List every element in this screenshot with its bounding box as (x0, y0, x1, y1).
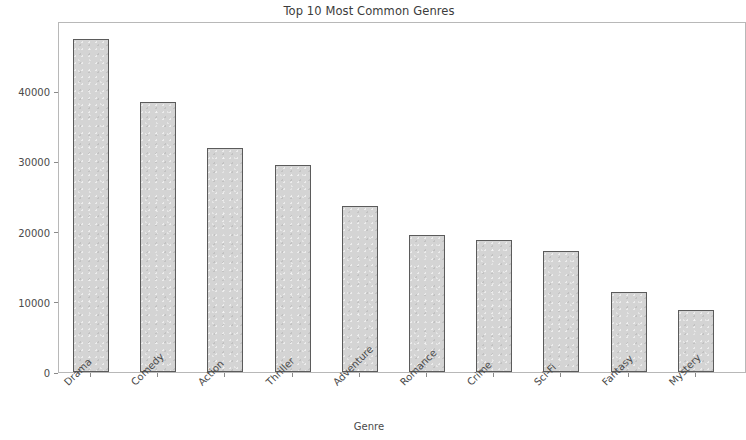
y-tick-mark (54, 162, 58, 163)
bar-crime (476, 240, 512, 372)
bar-drama (73, 39, 109, 372)
x-tick-mark (695, 373, 696, 377)
y-tick-mark (54, 232, 58, 233)
x-tick-mark (359, 373, 360, 377)
x-tick-mark (90, 373, 91, 377)
x-tick-mark (157, 373, 158, 377)
y-tick-mark (54, 373, 58, 374)
y-tick-label: 0 (0, 368, 50, 379)
bar-sci-fi (543, 251, 579, 372)
x-tick-mark (292, 373, 293, 377)
x-tick-mark (493, 373, 494, 377)
y-tick-label: 20000 (0, 227, 50, 238)
plot-area (58, 22, 746, 373)
y-tick-label: 40000 (0, 87, 50, 98)
y-tick-mark (54, 302, 58, 303)
x-tick-mark (224, 373, 225, 377)
chart-title: Top 10 Most Common Genres (0, 4, 738, 18)
bar-adventure (342, 206, 378, 372)
x-axis-title: Genre (0, 421, 738, 432)
y-tick-mark (54, 92, 58, 93)
x-tick-mark (628, 373, 629, 377)
x-tick-mark (426, 373, 427, 377)
bar-comedy (140, 102, 176, 372)
y-tick-label: 10000 (0, 297, 50, 308)
bars-layer (59, 23, 745, 372)
y-tick-label: 30000 (0, 157, 50, 168)
bar-action (207, 148, 243, 372)
x-tick-mark (560, 373, 561, 377)
bar-thriller (275, 165, 311, 372)
